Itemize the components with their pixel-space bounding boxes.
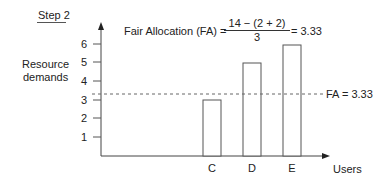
x-label-c: C [203, 162, 221, 174]
y-tick-5: 5 [75, 56, 87, 68]
bar-d [243, 63, 261, 156]
bar-c [203, 100, 221, 156]
formula-fraction: 14 − (2 + 2) 3 [224, 18, 290, 43]
y-tick-6: 6 [75, 38, 87, 50]
fair-allocation-label: FA = 3.33 [326, 88, 373, 100]
y-tick-3: 3 [75, 94, 87, 106]
x-label-d: D [243, 162, 261, 174]
bar-e [283, 45, 301, 156]
x-axis-label: Users [333, 163, 362, 175]
formula-denominator: 3 [224, 31, 290, 43]
y-tick-4: 4 [75, 75, 87, 87]
y-tick-1: 1 [75, 131, 87, 143]
y-tick-2: 2 [75, 112, 87, 124]
formula-prefix: Fair Allocation (FA) = [124, 25, 226, 37]
x-label-e: E [283, 162, 301, 174]
x-axis-arrow-icon [322, 153, 330, 159]
formula-numerator: 14 − (2 + 2) [224, 18, 290, 31]
y-axis-arrow-icon [98, 22, 104, 30]
y-ticks [93, 44, 101, 137]
formula-result: = 3.33 [291, 25, 322, 37]
